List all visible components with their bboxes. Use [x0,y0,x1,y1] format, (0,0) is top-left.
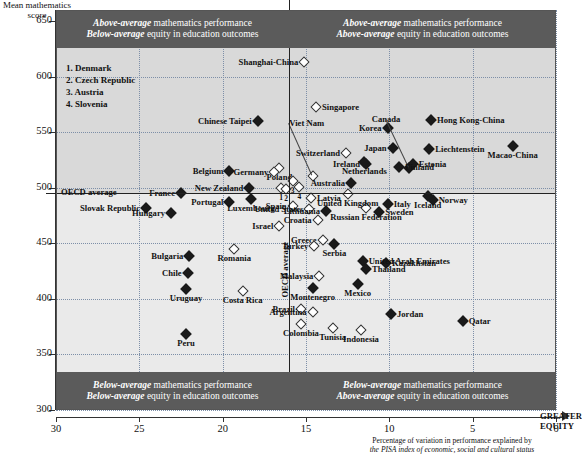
x-axis-title-line1: Percentage of variation in performance e… [330,436,574,445]
banner-emphasis: Below-average [343,380,401,390]
greater-equity-line2: EQUITY [540,422,582,432]
banner-text: mathematics performance [401,18,502,28]
x-axis-tick [473,417,474,422]
y-axis-tick-label: 550 [16,125,52,136]
x-axis-tick [139,417,140,422]
greater-equity-label: GREATER EQUITY [540,412,582,431]
data-point-label: Iceland [414,200,441,209]
x-axis-tick-label: 15 [291,423,321,434]
quadrant-banner-bottom-right: Below-average mathematics performance Ab… [289,372,556,410]
data-point-label: Montenegro [290,292,335,301]
quadrant-banner-top-left: Above-average mathematics performance Be… [56,10,289,48]
oecd-average-horizontal-label: OECD average [60,187,118,197]
legend-box: 1. Denmark 2. Czech Republic 3. Austria … [66,62,135,110]
data-point-label: Croatia [284,216,312,225]
data-point-label: United Kingdom [317,199,378,208]
data-point-label: Indonesia [343,335,379,344]
banner-text: mathematics performance [151,18,252,28]
quadrant-banner-bottom-left: Below-average mathematics performance Be… [56,372,289,410]
x-axis-tick-label: 10 [374,423,404,434]
data-point-label: Chinese Taipei [198,117,252,126]
gridline-vertical [223,10,224,410]
data-point-label: New Zealand [195,183,243,192]
data-point-label: Macao-China [488,150,538,159]
banner-text: equity in education outcomes [395,29,509,39]
y-axis-tick-label: 300 [16,403,52,414]
data-point-label: Bulgaria [151,251,183,260]
data-point-label: Netherlands [342,167,387,176]
x-axis-tick [389,417,390,422]
data-point-label: Costa Rica [223,296,263,305]
banner-emphasis: Above-average [343,18,401,28]
x-axis-tick-label: 20 [208,423,238,434]
x-axis-line [56,417,564,418]
data-point-label: Portugal [191,198,223,207]
data-point-label: Japan [364,143,386,152]
y-axis-tick-label: 400 [16,292,52,303]
data-point-label: Germany [233,168,268,177]
gridline-vertical [56,10,57,410]
data-point-label: Israel [252,221,273,230]
data-point-label: Finland [405,162,434,171]
data-point-label: Qatar [469,317,491,326]
y-axis-tick-label: 600 [16,70,52,81]
oecd-average-vertical-line [289,0,290,410]
banner-emphasis: Below-average [86,391,144,401]
x-axis-tick-label: 25 [124,423,154,434]
legend-item: 4. Slovenia [66,98,135,110]
data-point-label: Viet Nam [289,119,324,128]
y-axis-tick-label: 450 [16,236,52,247]
data-point-label: Mexico [344,289,371,298]
quadrant-banner-top-right: Above-average mathematics performance Ab… [289,10,556,48]
banner-text: equity in education outcomes [145,391,259,401]
data-point-label: Thailand [372,264,405,273]
data-point-label: Serbia [322,249,346,258]
data-point-label: Romania [218,253,251,262]
legend-item: 2. Czech Republic [66,74,135,86]
banner-text: mathematics performance [151,380,252,390]
data-point-label: Switzerland [296,149,340,158]
x-axis-title-line2: the PISA index of economic, social and c… [370,445,535,454]
data-point-label: Australia [311,179,345,188]
data-point-label: Hungary [132,209,165,218]
banner-text: mathematics performance [401,380,502,390]
x-axis-tick-label: 30 [41,423,71,434]
data-point-label: Hong Kong-China [437,116,505,125]
y-axis-tick-label: 500 [16,181,52,192]
data-point-label: Korea [359,123,382,132]
gridline-vertical [556,10,557,410]
x-axis-tick [306,417,307,422]
banner-emphasis: Above-average [93,18,151,28]
gridline-vertical [473,10,474,410]
data-point-label: Jordan [397,310,423,319]
data-point-label: Liechtenstein [435,144,484,153]
data-point-label: Tunisia [319,332,346,341]
data-point-label: Slovak Republic [80,203,140,212]
x-axis-tick [56,417,57,422]
y-axis-tick-label: 650 [16,14,52,25]
banner-text: equity in education outcomes [395,391,509,401]
oecd-average-vertical-label: OECD average [280,242,290,298]
banner-emphasis: Below-average [86,29,144,39]
legend-item: 3. Austria [66,86,135,98]
data-point-label: Chile [162,269,182,278]
x-axis-tick-label: 5 [458,423,488,434]
banner-text: equity in education outcomes [145,29,259,39]
data-point-label: Uruguay [170,293,202,302]
banner-emphasis: Above-average [336,391,394,401]
banner-emphasis: Below-average [93,380,151,390]
oecd-average-horizontal-line [46,193,556,194]
x-axis-title: Percentage of variation in performance e… [330,436,574,454]
data-point-label: Singapore [322,102,359,111]
data-point-label: Belgium [193,167,224,176]
x-axis-tick [223,417,224,422]
plot-area: Shanghai-ChinaSingaporeChinese TaipeiVie… [56,10,556,410]
data-point-label: Russian Federation [330,212,401,221]
data-point-label: Peru [177,339,195,348]
data-point-label: Norway [439,196,468,205]
banner-emphasis: Above-average [336,29,394,39]
legend-item: 1. Denmark [66,62,135,74]
gridline-horizontal [56,410,556,411]
y-axis-tick-label: 350 [16,347,52,358]
